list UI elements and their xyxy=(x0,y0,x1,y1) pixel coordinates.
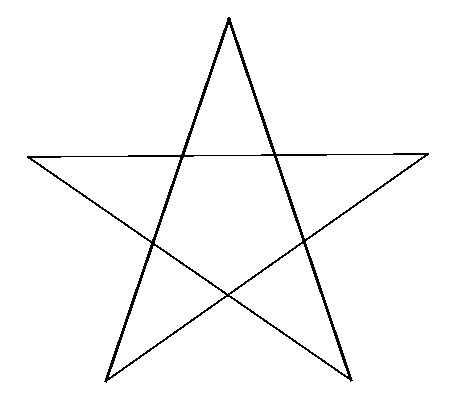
drawing-canvas xyxy=(0,0,449,408)
star-line-right-to-bottom-left xyxy=(106,154,428,381)
star-line-top-to-bottom-left xyxy=(106,19,229,381)
star-line-left-to-bottom-right xyxy=(28,157,351,380)
star-line-left-to-right xyxy=(28,154,428,157)
five-point-star-drawing xyxy=(0,0,449,408)
star-line-top-to-bottom-right xyxy=(229,19,351,380)
